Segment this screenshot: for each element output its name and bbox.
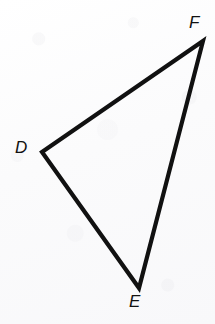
- triangle-DEF-outline: [42, 41, 203, 288]
- vertex-label-E: E: [129, 293, 140, 310]
- triangle-figure: D E F: [0, 0, 215, 324]
- vertex-label-D: D: [15, 139, 27, 156]
- triangle-drawing: [0, 0, 215, 324]
- vertex-label-F: F: [189, 14, 199, 31]
